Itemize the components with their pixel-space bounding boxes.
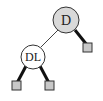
node-dl: DL bbox=[21, 45, 45, 69]
edge-dl-leaf-mid bbox=[40, 66, 49, 83]
leaf-bottom-left bbox=[12, 81, 21, 90]
leaf-bottom-mid bbox=[45, 81, 54, 90]
tree-diagram: D DL bbox=[0, 0, 103, 101]
node-d-label: D bbox=[61, 13, 71, 28]
edge-dl-leaf-left bbox=[17, 66, 26, 83]
node-dl-label: DL bbox=[25, 50, 41, 64]
node-d: D bbox=[53, 7, 79, 33]
leaf-right bbox=[83, 43, 92, 52]
edge-d-dl bbox=[41, 30, 58, 47]
